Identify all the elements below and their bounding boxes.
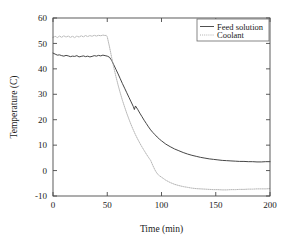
y-axis-title: Temperature (C) (9, 76, 20, 139)
y-axis-tick-label: 40 (38, 64, 48, 74)
y-axis-tick-label: 0 (43, 166, 48, 176)
chart-figure: 050100150200-100102030405060 Time (min) … (0, 0, 287, 241)
y-axis-tick-label: 50 (38, 39, 48, 49)
y-axis-tick-label: 20 (38, 115, 48, 125)
y-axis-tick-label: 30 (38, 89, 48, 99)
x-axis-tick-label: 150 (209, 200, 223, 210)
legend-label-coolant: Coolant (217, 30, 245, 40)
chart-legend: Feed solution Coolant (197, 19, 269, 41)
x-axis-tick-label: 200 (263, 200, 277, 210)
y-axis-tick-label: -10 (35, 191, 47, 201)
y-axis-tick-label: 60 (38, 13, 48, 23)
x-axis-tick-label: 50 (103, 200, 113, 210)
x-axis-tick-label: 0 (51, 200, 56, 210)
y-axis-tick-label: 10 (38, 140, 48, 150)
x-axis-tick-label: 100 (155, 200, 169, 210)
chart-canvas: 050100150200-100102030405060 Time (min) … (0, 0, 287, 241)
x-axis-title: Time (min) (140, 224, 183, 235)
